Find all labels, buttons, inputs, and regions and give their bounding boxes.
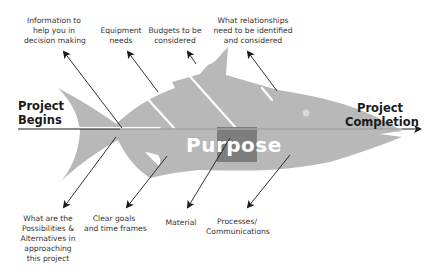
fish-eye	[303, 110, 310, 117]
cause-line: and considered	[212, 36, 294, 46]
cause-line: needs	[96, 36, 146, 46]
arrow-budgets	[188, 52, 196, 64]
cause-line: Equipment	[96, 26, 146, 36]
end-line-1: Project	[345, 101, 415, 115]
cause-possibilities: What are the Possibilities & Alternative…	[20, 214, 76, 264]
cause-goals: Clear goals and time frames	[84, 214, 144, 234]
cause-line: this project	[20, 254, 76, 264]
project-completion-label: Project Completion	[345, 101, 415, 129]
cause-equipment: Equipment needs	[96, 26, 146, 46]
arrow-equipment	[128, 52, 158, 92]
cause-line: Communications	[206, 227, 268, 237]
project-begins-label: Project Begins	[18, 99, 64, 127]
cause-information: Information to help you in decision maki…	[24, 16, 84, 46]
start-line-2: Begins	[18, 113, 64, 127]
end-line-2: Completion	[345, 115, 415, 129]
cause-line: approaching	[20, 244, 76, 254]
cause-line: Clear goals	[84, 214, 144, 224]
cause-line: help you in	[24, 26, 84, 36]
cause-line: Possibilities &	[20, 224, 76, 234]
start-line-1: Project	[18, 99, 64, 113]
cause-line: Material	[160, 218, 202, 228]
fish-tail	[58, 88, 118, 180]
cause-line: What are the	[20, 214, 76, 224]
cause-processes: Processes/ Communications	[206, 217, 268, 237]
cause-line: decision making	[24, 36, 84, 46]
cause-line: considered	[148, 36, 202, 46]
cause-line: need to be identified	[212, 26, 294, 36]
cause-line: Information to	[24, 16, 84, 26]
cause-line: and time frames	[84, 224, 144, 234]
cause-line: What relationships	[212, 16, 294, 26]
cause-line: Processes/	[206, 217, 268, 227]
cause-line: Budgets to be	[148, 26, 202, 36]
cause-line: Alternatives in	[20, 234, 76, 244]
purpose-label: Purpose	[186, 133, 282, 157]
cause-relationships: What relationships need to be identified…	[212, 16, 294, 46]
cause-budgets: Budgets to be considered	[148, 26, 202, 46]
cause-material: Material	[160, 218, 202, 228]
